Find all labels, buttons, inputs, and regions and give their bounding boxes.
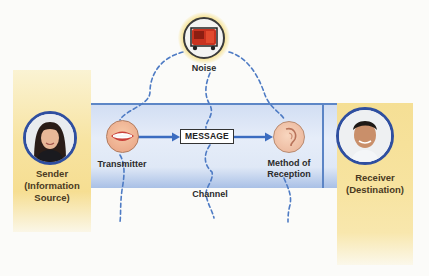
sender-label: Sender (Information Source) (13, 168, 91, 204)
message-dash-down (205, 145, 214, 218)
message-box: MESSAGE (180, 129, 234, 144)
sender-avatar (23, 111, 77, 165)
reception-label-line1: Method of (258, 158, 320, 169)
ear-icon (273, 121, 305, 153)
receiver-label-line1: Receiver (334, 172, 416, 184)
reception-label-line2: Reception (258, 169, 320, 180)
noise-dash-center (206, 73, 212, 128)
generator-icon (183, 17, 225, 59)
reception-label: Method of Reception (258, 158, 320, 180)
noise-dash-left (120, 52, 183, 120)
noise-dash-right (229, 52, 285, 120)
receiver-label: Receiver (Destination) (334, 172, 416, 196)
receiver-avatar (336, 107, 394, 165)
sender-label-line1: Sender (13, 168, 91, 180)
sender-label-line3: Source) (13, 192, 91, 204)
mouth-icon (106, 120, 139, 153)
sender-label-line2: (Information (13, 180, 91, 192)
reception-dash-down (284, 178, 291, 222)
channel-label: Channel (185, 189, 235, 200)
receiver-label-line2: (Destination) (334, 184, 416, 196)
noise-label: Noise (184, 63, 224, 74)
transmitter-label: Transmitter (92, 159, 152, 170)
